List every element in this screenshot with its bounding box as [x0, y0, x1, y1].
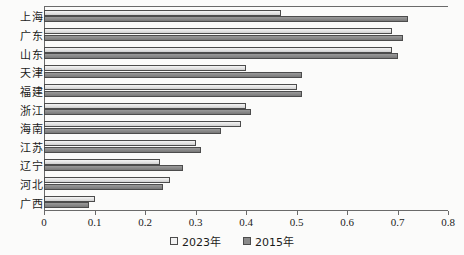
- y-axis-tick-label: 河北: [20, 176, 43, 192]
- y-axis-tick-label: 广东: [20, 27, 43, 43]
- bar-group: [44, 136, 448, 155]
- x-axis-tick-label: 0.7: [391, 216, 405, 228]
- plot-area: [44, 6, 448, 211]
- legend-label: 2023年: [182, 233, 221, 249]
- bar-2015: [44, 109, 251, 115]
- bar-2015: [44, 35, 403, 41]
- x-axis-tick-label: 0.1: [88, 216, 102, 228]
- y-axis-tick-label: 海南: [20, 120, 43, 136]
- x-axis-tick: [145, 211, 146, 215]
- x-axis-tick-label: 0: [41, 216, 47, 228]
- y-axis-tick-label: 天津: [20, 64, 43, 80]
- legend-item[interactable]: 2023年: [170, 233, 221, 249]
- x-axis-tick: [448, 211, 449, 215]
- bar-2023: [44, 84, 297, 90]
- bar-group: [44, 99, 448, 118]
- bar-group: [44, 174, 448, 193]
- bar-2015: [44, 72, 302, 78]
- y-axis-tick-label: 浙江: [20, 102, 43, 118]
- y-axis-tick-label: 江苏: [20, 139, 43, 155]
- legend-item[interactable]: 2015年: [243, 233, 294, 249]
- y-axis-tick-label: 上海: [20, 8, 43, 24]
- light-square-icon: [170, 237, 178, 245]
- bar-group: [44, 118, 448, 137]
- x-axis-tick-label: 0.2: [138, 216, 152, 228]
- bar-2023: [44, 196, 95, 202]
- bar-chart: 00.10.20.30.40.50.60.70.8 上海广东山东天津福建浙江海南…: [0, 0, 464, 255]
- bar-2023: [44, 65, 246, 71]
- bar-2023: [44, 10, 281, 16]
- bar-2015: [44, 128, 221, 134]
- bar-2015: [44, 91, 302, 97]
- x-axis-tick: [347, 211, 348, 215]
- legend-label: 2015年: [255, 233, 294, 249]
- bar-2015: [44, 53, 398, 59]
- bar-group: [44, 25, 448, 44]
- bar-2015: [44, 16, 408, 22]
- bar-group: [44, 192, 448, 211]
- bar-2023: [44, 47, 392, 53]
- y-axis-tick-label: 辽宁: [20, 157, 43, 173]
- bar-2015: [44, 202, 89, 208]
- bar-group: [44, 155, 448, 174]
- bar-2023: [44, 28, 392, 34]
- bar-group: [44, 81, 448, 100]
- bar-2023: [44, 159, 160, 165]
- y-axis-tick-label: 山东: [20, 46, 43, 62]
- x-axis-tick: [95, 211, 96, 215]
- bar-2023: [44, 121, 241, 127]
- y-axis-tick-label: 广西: [20, 195, 43, 211]
- x-axis-tick: [398, 211, 399, 215]
- x-axis-tick: [196, 211, 197, 215]
- bar-group: [44, 43, 448, 62]
- x-axis-tick-label: 0.5: [290, 216, 304, 228]
- bar-2015: [44, 165, 183, 171]
- bar-group: [44, 62, 448, 81]
- bar-2023: [44, 140, 196, 146]
- x-axis-tick: [297, 211, 298, 215]
- bar-2015: [44, 147, 201, 153]
- bar-2015: [44, 184, 163, 190]
- dark-square-icon: [243, 237, 251, 245]
- x-axis-tick-label: 0.8: [441, 216, 455, 228]
- bar-group: [44, 6, 448, 25]
- x-axis-tick: [246, 211, 247, 215]
- chart-legend: 2023年2015年: [0, 233, 464, 249]
- x-axis-tick-label: 0.3: [189, 216, 203, 228]
- x-axis-tick-label: 0.4: [239, 216, 253, 228]
- bar-2023: [44, 177, 170, 183]
- y-axis-tick-label: 福建: [20, 83, 43, 99]
- x-axis-tick-label: 0.6: [340, 216, 354, 228]
- x-axis-tick: [44, 211, 45, 215]
- bar-2023: [44, 103, 246, 109]
